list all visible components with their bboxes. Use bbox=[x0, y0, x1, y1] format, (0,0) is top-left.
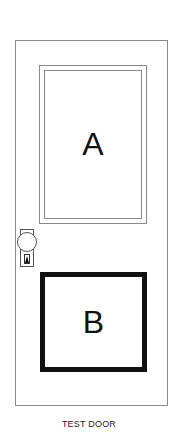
panel-a-label: A bbox=[44, 70, 142, 219]
panel-b-label: B bbox=[83, 304, 104, 341]
panel-b: B bbox=[40, 272, 147, 372]
doorknob-icon bbox=[17, 232, 37, 252]
figure-caption: TEST DOOR bbox=[0, 419, 178, 429]
